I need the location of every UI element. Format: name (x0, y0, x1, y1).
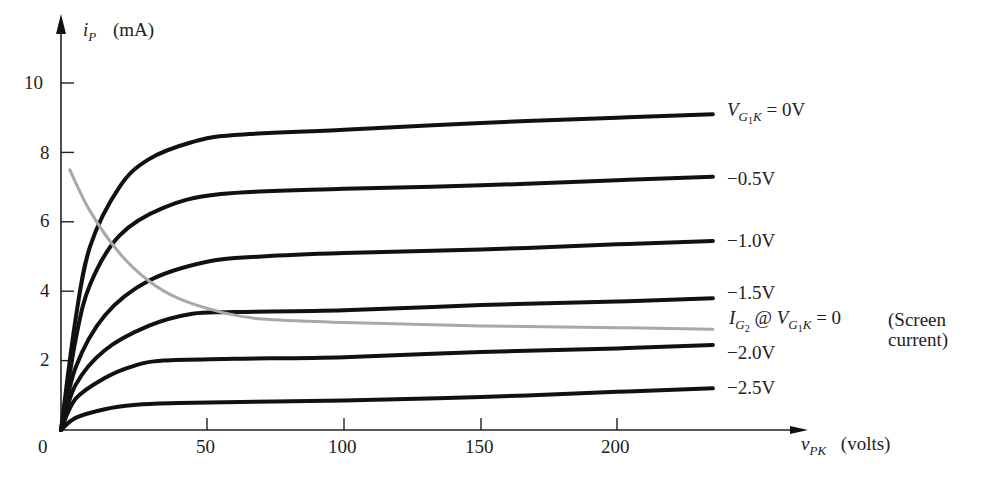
curve-label-0v: VG1K = 0V (727, 100, 805, 126)
screen-current-note-1: (Screen (888, 310, 946, 329)
curve-label-minus-2-5v: −2.5V (727, 378, 775, 397)
x-axis-label: vPK (volts) (801, 434, 890, 457)
y-axis-label: iP (mA) (83, 20, 154, 43)
screen-current-note-2: current) (888, 330, 948, 349)
x-tick-label-200: 200 (601, 437, 630, 456)
origin-label: 0 (38, 437, 48, 456)
y-tick-label-2: 2 (40, 350, 50, 369)
curve-label-minus-1-0v: −1.0V (727, 231, 775, 250)
y-axis-arrow-icon (56, 14, 66, 34)
x-tick-label-100: 100 (328, 437, 357, 456)
curve-label-minus-0-5v: −0.5V (727, 169, 775, 188)
plate-curve-3 (61, 298, 713, 430)
plate-curve-5 (61, 388, 713, 430)
y-tick-label-6: 6 (40, 211, 50, 230)
plate-curve-4 (61, 345, 713, 430)
y-tick-label-4: 4 (40, 281, 50, 300)
x-tick-label-150: 150 (465, 437, 494, 456)
curve-label-minus-2-0v: −2.0V (727, 343, 775, 362)
y-tick-label-8: 8 (40, 143, 50, 162)
screen-current-curve (70, 170, 713, 330)
plate-curve-0 (61, 114, 713, 430)
x-tick-label-50: 50 (196, 437, 215, 456)
curve-label-screen-current: IG2 @ VG1K = 0 (729, 308, 841, 334)
plot-area (0, 0, 993, 490)
curve-label-minus-1-5v: −1.5V (727, 283, 775, 302)
y-tick-label-10: 10 (24, 73, 43, 92)
